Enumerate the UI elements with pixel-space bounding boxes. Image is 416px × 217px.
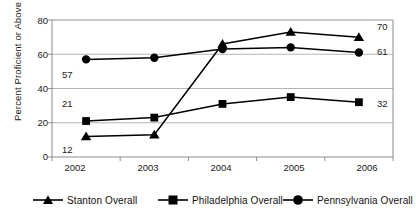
data-label-pennsylvania-2002: 57 [62,70,73,80]
data-point-square [150,114,158,122]
legend-item-pennsylvania-overall[interactable]: Pennsylvania Overall [283,190,413,210]
legend-label: Pennsylvania Overall [317,195,413,206]
x-tick-label: 2005 [271,163,317,173]
data-point-square [287,93,295,101]
legend-item-stanton-overall[interactable]: Stanton Overall [33,190,137,210]
chart-legend: Stanton Overall Philadelphia Overall Pen… [0,190,416,217]
data-point-square [219,100,227,108]
x-tick-label: 2006 [344,163,390,173]
legend-label: Stanton Overall [67,195,137,206]
square-marker-icon [158,193,188,207]
x-tick-label: 2003 [125,163,171,173]
legend-label: Philadelphia Overall [192,195,283,206]
data-point-circle [287,43,295,51]
data-label-pennsylvania-2006: 61 [377,47,388,57]
x-tick-label: 2004 [198,163,244,173]
data-point-circle [150,53,158,61]
data-point-circle [355,48,363,56]
data-point-triangle [286,27,296,36]
data-label-stanton-2006: 70 [377,22,388,32]
plot-area [0,0,416,190]
data-point-square [82,117,90,125]
line-chart: Percent Proficient or Above 80 60 40 20 … [0,0,416,217]
x-tick-label: 2002 [52,163,98,173]
legend-item-philadelphia-overall[interactable]: Philadelphia Overall [158,190,283,210]
data-point-square [355,98,363,106]
data-label-philadelphia-2006: 32 [377,99,388,109]
circle-marker-icon [283,193,313,207]
triangle-marker-icon [33,193,63,207]
data-point-circle [218,45,226,53]
data-point-circle [82,55,90,63]
data-label-philadelphia-2002: 21 [62,99,73,109]
data-label-stanton-2002: 12 [62,145,73,155]
